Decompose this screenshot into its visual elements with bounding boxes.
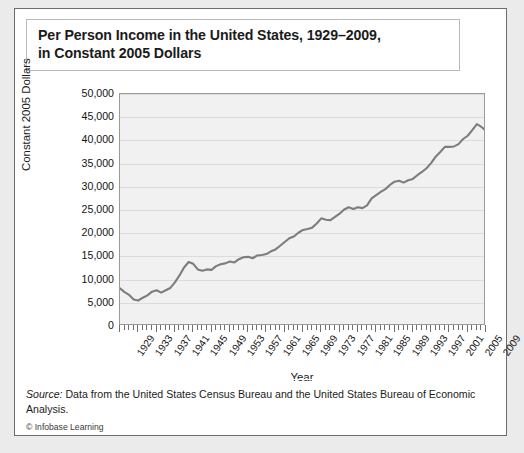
x-axis-tickmark [320, 325, 321, 332]
x-axis-tickmark [380, 325, 381, 330]
x-axis-tick-label: 1985 [391, 333, 413, 358]
x-axis-tick-label: 1957 [263, 333, 285, 358]
x-axis-tickmark [435, 325, 436, 330]
x-axis-tickmark [224, 325, 225, 330]
chart-title-box: Per Person Income in the United States, … [26, 19, 460, 71]
x-axis-tickmark [361, 325, 362, 330]
x-axis-tickmark [201, 325, 202, 330]
x-axis-tick-label: 1961 [281, 333, 303, 358]
x-axis-tickmark [329, 325, 330, 330]
x-axis-tickmark [238, 325, 239, 330]
x-axis-tickmark [339, 325, 340, 332]
x-axis-tickmark [174, 325, 175, 332]
x-axis-tickmark [485, 325, 486, 332]
x-axis-tickmark [288, 325, 289, 330]
x-axis-tickmark [284, 325, 285, 332]
x-axis-tickmark [357, 325, 358, 332]
x-axis-tickmark [439, 325, 440, 330]
x-axis-tick-label: 1973 [336, 333, 358, 358]
y-axis-tick-label: 5,000 [87, 296, 114, 308]
x-axis-tickmark [169, 325, 170, 330]
y-axis-tick-label: 10,000 [82, 273, 114, 285]
x-axis-tickmark [462, 325, 463, 330]
x-axis-tickmark [211, 325, 212, 332]
x-axis-tickmark [279, 325, 280, 330]
x-axis-tickmark [178, 325, 179, 330]
source-label: Source: [26, 388, 63, 400]
x-axis-tickmark [375, 325, 376, 332]
x-axis-tickmark [471, 325, 472, 330]
source-divider [26, 379, 496, 380]
x-axis-tick-label: 1997 [446, 333, 468, 358]
y-axis-tick-label: 20,000 [82, 226, 114, 238]
y-axis-tick-label: 35,000 [82, 157, 114, 169]
copyright-notice: © Infobase Learning [26, 422, 496, 432]
x-axis-tickmark [371, 325, 372, 330]
x-axis-title: Year [119, 371, 485, 383]
y-axis-tick-label: 40,000 [82, 133, 114, 145]
x-axis-tickmark [229, 325, 230, 332]
x-axis-tickmark [334, 325, 335, 330]
x-axis-tick-label: 1937 [171, 333, 193, 358]
x-axis-tick-label: 1965 [299, 333, 321, 358]
x-axis-tickmark [311, 325, 312, 330]
x-axis-tick-label: 1929 [135, 333, 157, 358]
source-note: Source: Data from the United States Cens… [26, 387, 496, 432]
y-axis-tick-label: 25,000 [82, 203, 114, 215]
x-axis-tickmark [124, 325, 125, 330]
x-axis-tickmarks [119, 325, 485, 333]
x-axis-tickmark [416, 325, 417, 330]
x-axis-tickmark [293, 325, 294, 330]
x-axis-tick-label: 1981 [373, 333, 395, 358]
x-axis-tickmark [151, 325, 152, 330]
x-axis-tickmark [146, 325, 147, 330]
x-axis-tickmark [343, 325, 344, 330]
x-axis-tickmark [453, 325, 454, 330]
x-axis-tickmark [352, 325, 353, 330]
x-axis-tickmark [421, 325, 422, 330]
income-line-series [120, 94, 485, 325]
x-axis-tickmark [307, 325, 308, 330]
x-axis-tick-label: 2001 [464, 333, 486, 358]
x-axis-tickmark [430, 325, 431, 332]
x-axis-tickmark [444, 325, 445, 330]
x-axis-tickmark [389, 325, 390, 330]
x-axis-tickmark [398, 325, 399, 330]
x-axis-tick-label: 1989 [409, 333, 431, 358]
x-axis-tickmark [448, 325, 449, 332]
x-axis-tickmark [256, 325, 257, 330]
x-axis-tick-label: 2005 [482, 333, 504, 358]
x-axis-tickmark [348, 325, 349, 330]
plot-area [119, 93, 485, 325]
y-axis-tick-label: 0 [108, 319, 114, 331]
x-axis-tickmark [297, 325, 298, 330]
x-axis-tick-label: 1945 [208, 333, 230, 358]
x-axis-tickmark [233, 325, 234, 330]
x-axis-tick-labels: 1929193319371941194519491953195719611965… [119, 333, 485, 375]
chart-container: Constant 2005 Dollars 50,00045,00040,000… [26, 75, 496, 380]
x-axis-tick-label: 2009 [501, 333, 523, 358]
x-axis-tickmark [165, 325, 166, 330]
x-axis-tickmark [384, 325, 385, 330]
x-axis-tickmark [458, 325, 459, 330]
x-axis-tickmark [302, 325, 303, 332]
x-axis-tickmark [252, 325, 253, 330]
x-axis-tickmark [325, 325, 326, 330]
x-axis-tick-label: 1941 [190, 333, 212, 358]
x-axis-tickmark [480, 325, 481, 330]
x-axis-tickmark [403, 325, 404, 330]
x-axis-tickmark [270, 325, 271, 330]
chart-card: Per Person Income in the United States, … [14, 8, 507, 436]
x-axis-tickmark [142, 325, 143, 330]
x-axis-tickmark [394, 325, 395, 332]
x-axis-tickmark [192, 325, 193, 332]
x-axis-tick-label: 1993 [427, 333, 449, 358]
x-axis-tickmark [366, 325, 367, 330]
x-axis-tickmark [261, 325, 262, 330]
y-axis-tick-label: 45,000 [82, 110, 114, 122]
x-axis-tickmark [275, 325, 276, 330]
x-axis-tickmark [128, 325, 129, 330]
x-axis-tick-label: 1977 [354, 333, 376, 358]
x-axis-tickmark [133, 325, 134, 330]
x-axis-tickmark [316, 325, 317, 330]
